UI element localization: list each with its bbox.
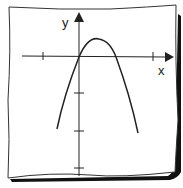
sketch-canvas	[0, 0, 183, 188]
x-axis-label: x	[158, 64, 165, 77]
paper-sheet	[8, 5, 178, 178]
y-axis-label: y	[62, 16, 69, 29]
